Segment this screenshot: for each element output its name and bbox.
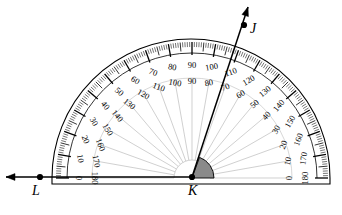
protractor-svg: 0102030405060708090100110120130140150160… — [0, 0, 342, 215]
inner-label-0: 0 — [284, 176, 294, 180]
outer-label-10: 10 — [75, 153, 86, 163]
point-label-J: J — [250, 22, 256, 36]
outer-label-180: 180 — [300, 172, 310, 185]
inner-label-180: 180 — [90, 172, 100, 185]
inner-label-90: 90 — [188, 76, 197, 86]
point-label-K: K — [188, 184, 197, 198]
outer-label-90: 90 — [188, 60, 197, 70]
ray-KJ-arrowhead — [242, 7, 248, 17]
inner-label-80: 80 — [204, 77, 214, 88]
inner-label-10: 10 — [282, 156, 293, 166]
point-label-L: L — [32, 184, 40, 198]
point-dot-L — [37, 174, 43, 180]
ray-KL-arrowhead — [6, 174, 15, 181]
point-dot-K — [189, 174, 195, 180]
outer-label-80: 80 — [167, 61, 177, 72]
protractor-figure: 0102030405060708090100110120130140150160… — [0, 0, 342, 215]
point-dot-J — [241, 22, 247, 28]
